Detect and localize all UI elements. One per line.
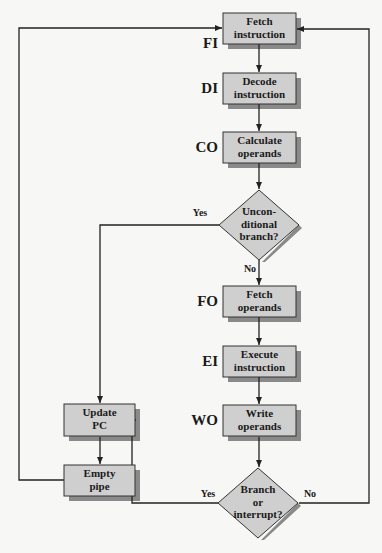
- edge-label-uncond-no: No: [240, 263, 260, 275]
- arrow-interrupt-no: [297, 29, 369, 503]
- stage-label-di: DI: [186, 80, 218, 97]
- stage-label-co: CO: [186, 139, 218, 156]
- label-execute-instruction: Execute instruction: [223, 348, 296, 373]
- stage-label-fo: FO: [186, 293, 218, 310]
- label-fetch-instruction: Fetch instruction: [223, 15, 296, 40]
- edge-label-branch-no: No: [300, 488, 320, 500]
- label-decode-instruction: Decode instruction: [223, 75, 296, 100]
- stage-label-ei: EI: [186, 353, 218, 370]
- stage-label-wo: WO: [186, 412, 218, 429]
- stage-label-fi: FI: [186, 35, 218, 52]
- label-empty-pipe: Empty pipe: [64, 467, 135, 492]
- label-calculate-operands: Calculate operands: [223, 134, 296, 159]
- label-branch-or-interrupt: Branch or interrupt?: [218, 483, 298, 521]
- label-unconditional-branch: Uncon- ditional branch?: [219, 205, 299, 243]
- label-fetch-operands: Fetch operands: [223, 288, 296, 313]
- edge-label-uncond-yes: Yes: [188, 207, 212, 219]
- arrow-uncond-yes: [100, 225, 219, 403]
- label-update-pc: Update PC: [64, 406, 135, 431]
- label-write-operands: Write operands: [223, 407, 296, 432]
- edge-label-branch-yes: Yes: [196, 488, 220, 500]
